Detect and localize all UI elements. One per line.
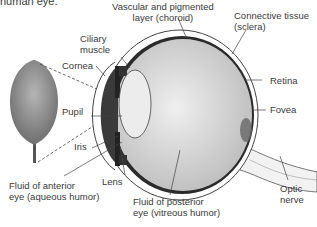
label-retina: Retina (270, 75, 297, 86)
label-ciliary-muscle: Ciliary muscle (80, 33, 110, 55)
label-sclera: Connective tissue (sclera) (234, 10, 309, 32)
label-lens: Lens (102, 176, 123, 187)
fovea (240, 118, 252, 142)
label-choroid: Vascular and pigmented layer (choroid) (112, 1, 214, 23)
tree-icon (10, 60, 58, 163)
label-iris: Iris (74, 141, 87, 152)
ciliary-muscle (119, 66, 127, 76)
label-cornea: Cornea (62, 60, 93, 71)
label-aqueous-humor: Fluid of anterior eye (aqueous humor) (9, 180, 99, 202)
lens (119, 70, 151, 138)
label-vitreous-humor: Fluid of posterior eye (vitreous humor) (133, 196, 220, 218)
label-optic-nerve: Optic nerve (280, 183, 304, 205)
label-fovea: Fovea (270, 104, 296, 115)
label-pupil: Pupil (62, 106, 83, 117)
